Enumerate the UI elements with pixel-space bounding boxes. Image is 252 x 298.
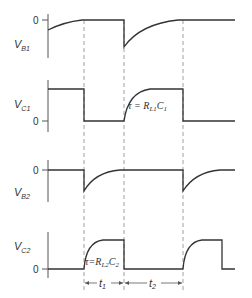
interval-t1: t1 [85,277,123,290]
vc1-label: VC1 [14,98,30,112]
t2-label: t2 [149,277,156,290]
panel-vc2: 0 VC2 τ=RL2C2 [14,232,235,278]
vc1-time-constant: τ = RL1C1 [128,100,167,113]
vb1-label: VB1 [14,38,30,52]
panel-vb2: 0 VB2 [14,160,235,202]
vc2-waveform [48,240,235,269]
interval-t2: t2 [125,277,182,290]
vb2-zero-label: 0 [33,165,39,176]
vc2-zero-label: 0 [33,264,39,275]
arrow-left-icon [125,281,129,285]
arrow-left-icon [85,281,89,285]
panel-vb1: 0 VB1 [14,14,235,58]
vc2-time-constant: τ=RL2C2 [85,256,120,269]
vb1-waveform [48,20,235,47]
vb2-label: VB2 [14,186,30,200]
panel-vc1: 0 VC1 τ = RL1C1 [14,80,235,132]
waveform-diagram: 0 VB1 0 VC1 τ = RL1C1 0 VB2 0 VC2 τ=RL2C… [0,0,252,298]
vc1-zero-label: 0 [33,116,39,127]
vb2-waveform [48,170,235,191]
t1-label: t1 [99,277,106,290]
arrow-right-icon [119,281,123,285]
vc2-label: VC2 [14,240,30,254]
arrow-right-icon [178,281,182,285]
vb1-zero-label: 0 [33,15,39,26]
